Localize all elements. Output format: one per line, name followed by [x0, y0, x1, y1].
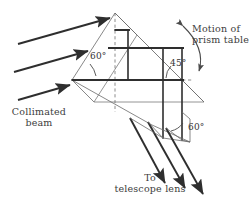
collimated-beam-line2: beam	[6, 118, 72, 129]
prism-front-face	[72, 13, 182, 80]
prism-edge-left	[72, 80, 94, 102]
to-telescope-lens-label: To telescope lens	[98, 173, 202, 195]
collimated-beam-label: Collimated beam	[6, 107, 72, 129]
platform-side-top	[182, 112, 190, 119]
angle-arcs	[90, 64, 183, 131]
platform-left-edge	[72, 80, 152, 125]
arc-60-left	[90, 64, 96, 76]
motion-label-line2: prism table	[192, 35, 249, 46]
prism-edge-right	[182, 80, 204, 102]
dashed-depth-baseline	[182, 80, 193, 91]
incident-ray-1	[18, 18, 110, 44]
angle-label-left-60: 60°	[90, 51, 107, 61]
incident-ray-2	[14, 51, 88, 72]
prism-back-face	[94, 35, 204, 102]
incident-ray-3	[18, 85, 70, 100]
angle-label-bottom-60: 60°	[188, 122, 205, 132]
prism-table-box	[72, 30, 182, 140]
telescope-label-line2: telescope lens	[98, 184, 202, 195]
figure-canvas: 60° 45° 60° Collimated beam Motion of pr…	[0, 0, 252, 206]
angle-label-right-45: 45°	[170, 58, 187, 68]
motion-of-prism-table-label: Motion of prism table	[192, 24, 249, 46]
prism-edge-apex	[115, 13, 137, 35]
